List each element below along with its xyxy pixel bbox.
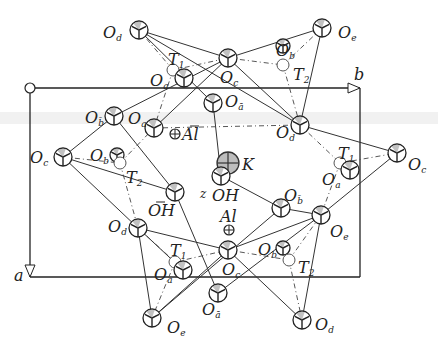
oa-top-label: Oa bbox=[150, 71, 169, 91]
ob-bottom-label: Ob bbox=[258, 240, 277, 260]
oh-label: OH bbox=[212, 186, 240, 205]
od-bottom-left-label: Od bbox=[108, 217, 127, 237]
ohbar-atom-icon bbox=[166, 183, 184, 201]
oc-bottom-label: Oc bbox=[222, 260, 240, 280]
k-label: K bbox=[241, 155, 255, 174]
ohbar-label: OH bbox=[148, 201, 176, 220]
oabar-bottom-label: Oā bbox=[202, 300, 221, 320]
od-top-left-atom-icon bbox=[130, 21, 148, 39]
t2-left-atom-icon bbox=[114, 157, 126, 169]
oc-left-atom-icon bbox=[54, 148, 72, 166]
origin-marker bbox=[25, 83, 35, 93]
oa-bottom-label: Oa bbox=[154, 265, 173, 285]
oc-bottom-atom-icon bbox=[219, 241, 237, 259]
bond-line bbox=[139, 30, 228, 58]
scan-artifact-band bbox=[0, 112, 438, 124]
obbar-left-atom-icon bbox=[105, 107, 123, 125]
t2-bottom-atom-icon bbox=[283, 254, 295, 266]
axis-b-text: b bbox=[354, 65, 364, 84]
od-top-left-label: Od bbox=[103, 23, 122, 43]
oa-right-label: Oa bbox=[322, 170, 341, 190]
t2-top-label: T2 bbox=[293, 65, 310, 85]
structure-canvas: baz OdOeOcObT2T1OaOāOb̄OaAlOdOcObT2KT1Oa… bbox=[0, 0, 438, 351]
obbar-right-label: Ob̄ bbox=[284, 186, 303, 206]
crystal-structure-diagram: baz OdOeOcObT2T1OaOāOb̄OaAlOdOcObT2KT1Oa… bbox=[0, 0, 438, 351]
oc-top-label: Oc bbox=[220, 68, 238, 88]
albar-atom-icon bbox=[170, 129, 180, 139]
unit-cell: baz bbox=[14, 65, 364, 285]
al-atom-icon bbox=[224, 225, 234, 235]
bond-line bbox=[228, 28, 322, 58]
t1-right-label: T1 bbox=[338, 144, 354, 164]
oe-bottom-label: Oe bbox=[167, 318, 185, 338]
od-bottom-label: Od bbox=[315, 315, 334, 335]
b-arrow-icon bbox=[348, 83, 360, 93]
oe-top-right-label: Oe bbox=[338, 23, 356, 43]
oe-top-right-atom-icon bbox=[313, 19, 331, 37]
oabar-top-label: Oā bbox=[225, 92, 244, 112]
bond-line bbox=[138, 228, 152, 318]
oe-right-atom-icon bbox=[312, 206, 330, 224]
od-right-atom-icon bbox=[291, 116, 309, 134]
oabar-top-atom-icon bbox=[204, 94, 222, 112]
oa-top-atom-icon bbox=[175, 69, 193, 87]
ob-top-label: Ob bbox=[276, 41, 295, 61]
oc-left-label: Oc bbox=[30, 148, 48, 168]
axis-a-text: a bbox=[14, 266, 24, 285]
ob-bottom-atom-icon bbox=[276, 241, 290, 255]
t1-top-label: T1 bbox=[168, 50, 184, 70]
ob-left-label: Ob bbox=[90, 146, 109, 166]
oc-top-atom-icon bbox=[219, 49, 237, 67]
bond-line bbox=[138, 228, 228, 250]
oh-atom-icon bbox=[212, 167, 230, 185]
a-arrow-icon bbox=[25, 265, 35, 277]
obbar-left-label: Ob̄ bbox=[85, 108, 104, 128]
od-bottom-atom-icon bbox=[293, 311, 311, 329]
oe-right-label: Oe bbox=[330, 222, 348, 242]
al-label: Al bbox=[218, 207, 237, 226]
albar-label: Al bbox=[180, 125, 199, 144]
oe-bottom-atom-icon bbox=[143, 309, 161, 327]
bond-line bbox=[228, 215, 321, 250]
t1-bottom-label: T1 bbox=[170, 241, 186, 261]
oc-right-atom-icon bbox=[388, 144, 406, 162]
t2-left-label: T2 bbox=[126, 168, 143, 188]
oa-bottom-atom-icon bbox=[174, 261, 192, 279]
od-bottom-left-atom-icon bbox=[129, 219, 147, 237]
oc-right-label: Oc bbox=[408, 155, 426, 175]
t2-top-atom-icon bbox=[277, 59, 289, 71]
axis-z-text: z bbox=[199, 187, 207, 201]
oa-left-atom-icon bbox=[145, 119, 163, 137]
